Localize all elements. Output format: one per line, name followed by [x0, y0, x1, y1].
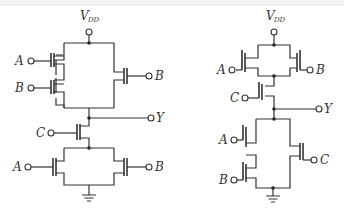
input-b-top: B [14, 81, 24, 95]
vdd-terminal [86, 29, 92, 35]
vdd-sub-right: DD [273, 16, 286, 24]
input-a-top-right: A [216, 63, 226, 77]
input-b-right: B [154, 69, 164, 83]
input-a-top: A [14, 54, 24, 68]
circuit-diagram: V DD A B B Y [0, 0, 344, 214]
input-a-bottom-right: A [218, 133, 228, 147]
input-c-bottom-right: C [320, 153, 329, 167]
right-circuit: V DD A B C Y A [216, 9, 333, 202]
input-b-bottom: B [154, 160, 164, 174]
output-y: Y [156, 111, 165, 125]
input-c-right: C [230, 91, 239, 105]
input-c: C [36, 126, 45, 140]
input-b-top-right: B [315, 63, 325, 77]
input-b-bottom-right: B [218, 173, 228, 187]
input-a-bottom: A [12, 160, 22, 174]
left-circuit: V DD A B B Y [12, 9, 165, 201]
vdd-sub: DD [87, 16, 100, 24]
output-y-right: Y [324, 102, 333, 116]
